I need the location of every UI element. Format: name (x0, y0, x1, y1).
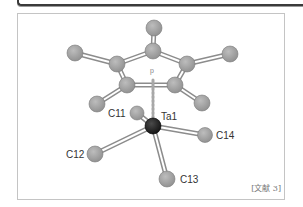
atom-cp-methyl-top (146, 20, 162, 36)
atom-c14 (198, 128, 213, 143)
label-c13: C13 (180, 175, 198, 185)
atom-cp-methyl-left (67, 45, 83, 61)
atom-c12 (87, 146, 103, 162)
molecular-structure (0, 0, 303, 207)
atom-cp-methyl-lower-right (194, 95, 210, 111)
label-ta1: Ta1 (161, 112, 177, 122)
atom-cp-methyl-right (222, 46, 238, 62)
atom-cp-ring-lower-right (167, 77, 183, 93)
atom-cp-ring-upper-left (109, 56, 125, 72)
atom-c13 (159, 171, 175, 187)
reference-label: [文献 3] (251, 182, 281, 193)
atom-ta1 (145, 118, 161, 134)
label-c14: C14 (216, 131, 234, 141)
label-c11: C11 (108, 109, 126, 119)
atom-cp-ring-lower-left (119, 77, 135, 93)
atom-cp-ring-top (145, 43, 161, 59)
atom-c11 (130, 106, 144, 120)
label-c12: C12 (66, 150, 84, 160)
atom-cp-methyl-lower-left (89, 96, 105, 112)
atom-cp-ring-upper-right (179, 56, 195, 72)
centroid-marker: p (150, 67, 154, 74)
